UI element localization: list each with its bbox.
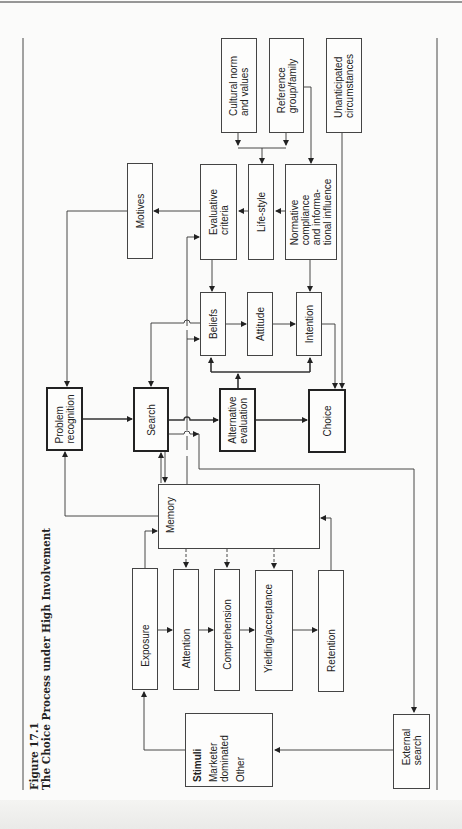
life-style-box: Life-style bbox=[248, 164, 274, 260]
node-label: Yielding/acceptance bbox=[263, 584, 274, 673]
retention-box: Retention bbox=[318, 570, 344, 692]
node-label: Cultural norm bbox=[228, 55, 239, 115]
node-label: Other bbox=[235, 735, 246, 782]
external-search-box: Externalsearch bbox=[393, 714, 430, 789]
beliefs-box: Beliefs bbox=[200, 292, 226, 356]
node-label: Attention bbox=[181, 629, 192, 668]
node-label: Life-style bbox=[256, 192, 267, 232]
evaluative-criteria-box: Evaluativecriteria bbox=[200, 164, 237, 260]
figure-number: Figure 17.1 bbox=[28, 528, 40, 790]
reference-group-box: Referencegroup/family bbox=[269, 38, 304, 133]
node-label: recognition bbox=[65, 395, 76, 444]
stimuli-box: Stimuli Marketer dominated Other bbox=[185, 713, 273, 787]
figure-title: The Choice Process under High Involvemen… bbox=[40, 528, 52, 790]
node-label: search bbox=[412, 729, 423, 766]
comprehension-box: Comprehension bbox=[214, 569, 240, 691]
node-label: Reference bbox=[276, 58, 287, 112]
node-label: group/family bbox=[287, 58, 298, 112]
page-bottom-shadow bbox=[0, 800, 462, 829]
node-label: Marketer bbox=[208, 735, 219, 782]
node-label: Motives bbox=[135, 194, 146, 228]
node-label: Problem bbox=[54, 395, 65, 444]
node-label: External bbox=[401, 729, 412, 766]
search-box: Search bbox=[133, 387, 169, 452]
node-label: Memory bbox=[165, 497, 176, 533]
node-label: Attitude bbox=[255, 307, 266, 341]
attention-box: Attention bbox=[173, 569, 199, 690]
node-label: tional influence bbox=[322, 179, 333, 246]
node-label: Alternative bbox=[227, 396, 238, 443]
node-label: Evaluative bbox=[208, 189, 219, 235]
node-label: dominated bbox=[219, 735, 230, 782]
stimuli-heading: Stimuli bbox=[192, 735, 203, 782]
node-label: Exposure bbox=[140, 624, 151, 666]
node-label: Search bbox=[146, 404, 157, 436]
motives-box: Motives bbox=[127, 163, 153, 259]
node-label: criteria bbox=[219, 189, 230, 235]
memory-box: Memory bbox=[158, 484, 320, 549]
node-label: and informa- bbox=[311, 179, 322, 246]
node-label: compliance bbox=[300, 179, 311, 246]
exposure-box: Exposure bbox=[132, 568, 158, 690]
intention-box: Intention bbox=[296, 292, 322, 356]
node-label: Comprehension bbox=[222, 599, 233, 670]
node-label: and values bbox=[239, 55, 250, 115]
normative-compliance-box: Normativecomplianceand informa-tional in… bbox=[285, 164, 337, 260]
diagram-page: Cultural normand values Referencegroup/f… bbox=[0, 0, 462, 829]
alternative-evaluation-box: Alternativeevaluation bbox=[219, 388, 256, 452]
node-label: Choice bbox=[322, 405, 333, 436]
node-label: Unanticipated bbox=[333, 54, 344, 118]
node-label: Beliefs bbox=[208, 309, 219, 339]
yielding-acceptance-box: Yielding/acceptance bbox=[255, 570, 293, 691]
node-label: Normative bbox=[289, 179, 300, 246]
figure-caption: Figure 17.1 The Choice Process under Hig… bbox=[28, 528, 52, 790]
choice-box: Choice bbox=[308, 389, 346, 453]
unanticipated-circumstances-box: Unanticipatedcircumstances bbox=[326, 38, 362, 133]
node-label: Intention bbox=[304, 305, 315, 343]
node-label: evaluation bbox=[238, 396, 249, 443]
cultural-norm-box: Cultural normand values bbox=[221, 38, 257, 133]
problem-recognition-box: Problemrecognition bbox=[46, 387, 83, 451]
attitude-box: Attitude bbox=[247, 292, 273, 356]
node-label: Retention bbox=[326, 629, 337, 672]
node-label: circumstances bbox=[344, 54, 355, 118]
